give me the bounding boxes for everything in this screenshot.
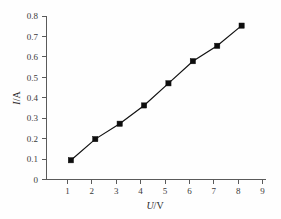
y-tick-label: 0 [34,175,39,185]
data-point [68,158,73,163]
y-tick-label: 0.6 [27,52,39,62]
data-point [190,59,195,64]
x-axis-title-unit: /V [154,200,165,211]
x-tick-label: 4 [138,186,143,196]
y-tick-label: 0.8 [27,11,39,21]
y-axis-title-unit: /A [11,91,22,102]
data-point [215,43,220,48]
y-tick-label: 0.5 [27,73,39,83]
data-point [239,23,244,28]
y-tick-label: 0.1 [27,154,38,164]
data-point [141,103,146,108]
x-tick-label: 3 [114,186,119,196]
y-axis-ticks [42,16,47,179]
y-axis-tick-labels: 0 0.1 0.2 0.3 0.4 0.5 0.6 0.7 0.8 [27,11,39,184]
data-point [93,137,98,142]
x-tick-label: 8 [236,186,241,196]
y-tick-label: 0.4 [27,93,39,103]
y-tick-label: 0.2 [27,134,38,144]
x-tick-label: 1 [65,186,70,196]
x-axis-ticks [67,180,262,185]
series-markers [68,23,244,163]
data-point [117,121,122,126]
y-tick-label: 0.3 [27,113,39,123]
y-axis-title: I/A [11,91,22,106]
x-tick-label: 2 [90,186,95,196]
iv-characteristic-chart: 0 0.1 0.2 0.3 0.4 0.5 0.6 0.7 0.8 1 2 3 [0,0,281,219]
x-tick-label: 6 [187,186,192,196]
data-series-group [68,23,244,163]
data-point [166,81,171,86]
x-tick-label: 5 [163,186,168,196]
x-axis-tick-labels: 1 2 3 4 5 6 7 8 9 [65,186,265,196]
axis-lines [47,16,267,180]
x-tick-label: 7 [212,186,217,196]
chart-figure: 0 0.1 0.2 0.3 0.4 0.5 0.6 0.7 0.8 1 2 3 [0,0,281,219]
x-axis-title: U/V [146,200,164,211]
y-tick-label: 0.7 [27,32,39,42]
x-tick-label: 9 [260,186,265,196]
